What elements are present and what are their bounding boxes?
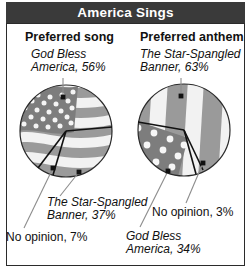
left-callout-no-opinion: No opinion, 7% [6,231,87,244]
right-callout-god-bless-america: God Bless America, 34% [126,230,201,257]
left-callout-star-spangled-banner: The Star-Spangled Banner, 37% [47,196,148,223]
right-panel-heading: Preferred anthem [140,31,244,45]
america-sings-figure: America Sings [0,0,251,269]
left-callout-god-bless-america: God Bless America, 56% [31,48,106,75]
right-callout-star-spangled-banner: The Star-Spangled Banner, 63% [140,48,241,75]
figure-title-bar: America Sings [6,2,245,23]
left-panel-heading: Preferred song [25,31,114,45]
right-callout-no-opinion: No opinion, 3% [152,206,233,219]
figure-title: America Sings [77,6,173,20]
